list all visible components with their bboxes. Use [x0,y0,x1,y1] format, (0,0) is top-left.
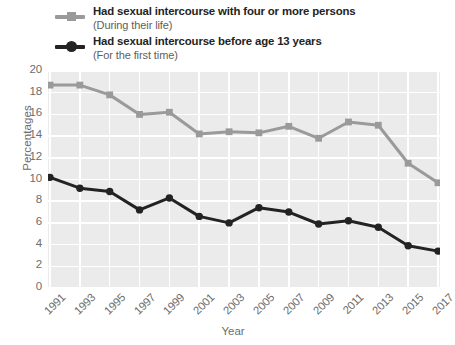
legend-entry-four-or-more-persons: Had sexual intercourse with four or more… [0,4,455,32]
data-point-square [166,109,173,116]
data-point-circle [196,213,203,220]
data-point-circle [404,242,411,249]
data-point-circle [136,206,143,213]
data-point-square [345,119,352,126]
x-axis-label: Year [148,325,318,337]
data-point-circle [315,220,322,227]
x-axis-tick-label: 2001 [180,291,217,328]
square-marker-icon [67,12,76,21]
y-axis-tick-label: 4 [14,237,42,249]
x-axis-tick-label: 2013 [359,291,396,328]
legend-label: Had sexual intercourse with four or more… [93,4,453,18]
series-line [50,85,438,183]
data-point-circle [255,204,262,211]
data-point-square [285,123,292,130]
data-point-square [256,129,263,136]
y-axis-tick-label: 8 [14,193,42,205]
series-0 [48,82,440,186]
circle-marker-icon [66,41,77,52]
line-chart-figure: Had sexual intercourse with four or more… [0,0,455,345]
x-axis-tick-label: 2003 [210,291,247,328]
x-axis-tick-label: 1995 [90,291,127,328]
legend-swatch-black [55,41,85,53]
data-point-circle [166,194,173,201]
data-point-circle [434,247,440,254]
data-point-circle [106,188,113,195]
data-point-square [435,179,440,186]
data-point-square [315,135,322,142]
x-axis-tick-label: 1997 [120,291,157,328]
data-point-square [106,91,113,98]
data-point-square [405,160,412,167]
legend-entry-before-age-13: Had sexual intercourse before age 13 yea… [0,34,455,62]
y-axis-tick-label: 0 [14,280,42,292]
data-point-square [48,82,53,89]
chart-legend: Had sexual intercourse with four or more… [0,0,455,62]
y-axis-tick-label: 2 [14,258,42,270]
data-point-circle [285,208,292,215]
x-axis-tick-label: 2017 [419,291,455,328]
legend-sublabel: (During their life) [93,18,453,32]
x-axis-tick-label: 2015 [389,291,426,328]
y-axis-tick-label: 6 [14,215,42,227]
y-axis-tick-label: 20 [14,63,42,75]
data-point-circle [225,219,232,226]
data-point-square [136,111,143,118]
legend-sublabel: (For the first time) [93,48,453,62]
x-axis-tick-label: 2009 [299,291,336,328]
data-point-square [226,128,233,135]
data-point-square [76,82,83,89]
series-1 [48,174,440,255]
legend-label: Had sexual intercourse before age 13 yea… [93,34,453,48]
legend-text-block: Had sexual intercourse with four or more… [93,4,453,32]
legend-swatch-gray [55,11,85,23]
x-axis-tick-label: 2007 [269,291,306,328]
x-axis-tick-label: 1999 [150,291,187,328]
x-axis-tick-label: 1991 [31,291,68,328]
data-point-square [375,122,382,129]
data-point-circle [375,224,382,231]
legend-text-block: Had sexual intercourse before age 13 yea… [93,34,453,62]
data-point-square [196,131,203,138]
data-point-circle [76,184,83,191]
x-axis-tick-label: 2011 [329,291,366,328]
data-point-circle [345,217,352,224]
plot-area [48,71,440,288]
x-axis-tick-label: 2005 [240,291,277,328]
series-layer [48,71,440,288]
x-axis-tick-label: 1993 [61,291,98,328]
y-axis-label: Percentages [21,88,33,188]
